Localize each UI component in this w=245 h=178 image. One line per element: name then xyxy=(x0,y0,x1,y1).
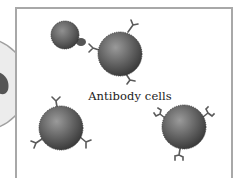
antibody-y-icon xyxy=(126,74,135,84)
diagram-label: Antibody cells xyxy=(88,89,172,103)
antibody-y-icon xyxy=(80,137,91,148)
small-cell xyxy=(51,21,86,49)
antibody-bracket-icon xyxy=(203,107,214,117)
antibody-y-icon xyxy=(52,97,60,107)
antibody-bracket-icon xyxy=(154,108,165,118)
antibody-bracket-icon xyxy=(175,149,183,160)
antibody-cell-top xyxy=(89,20,142,84)
antibody-cell-bottom-left xyxy=(31,97,91,150)
antibody-y-icon xyxy=(89,44,99,52)
antibody-cell-bottom-right xyxy=(154,105,214,160)
antibody-y-icon xyxy=(31,139,42,148)
antibody-y-icon xyxy=(128,20,138,32)
diagram-canvas: Antibody cells xyxy=(0,0,245,178)
